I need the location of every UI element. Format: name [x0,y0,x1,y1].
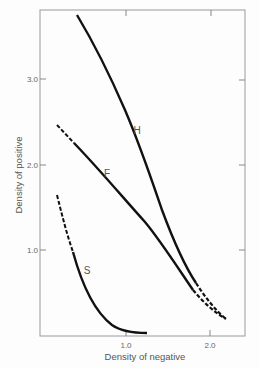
curve-f-dashed-start [57,125,74,143]
y-tick-label-1: 1.0 [27,246,39,255]
curve-h-dashed [196,283,226,319]
curve-f [74,143,193,290]
label-h: H [133,125,140,136]
label-s: S [84,265,91,276]
plot-frame [40,10,245,336]
label-f: F [104,168,110,179]
y-tick-label-3: 3.0 [27,75,39,84]
x-tick-label-2: 2.0 [204,341,216,350]
chart: 3.0 2.0 1.0 1.0 2.0 Density of negative … [0,0,259,368]
y-tick-label-2: 2.0 [27,161,39,170]
x-axis-label: Density of negative [105,351,186,362]
curve-f-dashed-end [193,290,226,319]
x-tick-label-1: 1.0 [120,341,132,350]
curve-s-dashed [57,195,73,252]
y-axis-label: Density of positive [13,136,24,213]
curve-h [77,15,196,283]
